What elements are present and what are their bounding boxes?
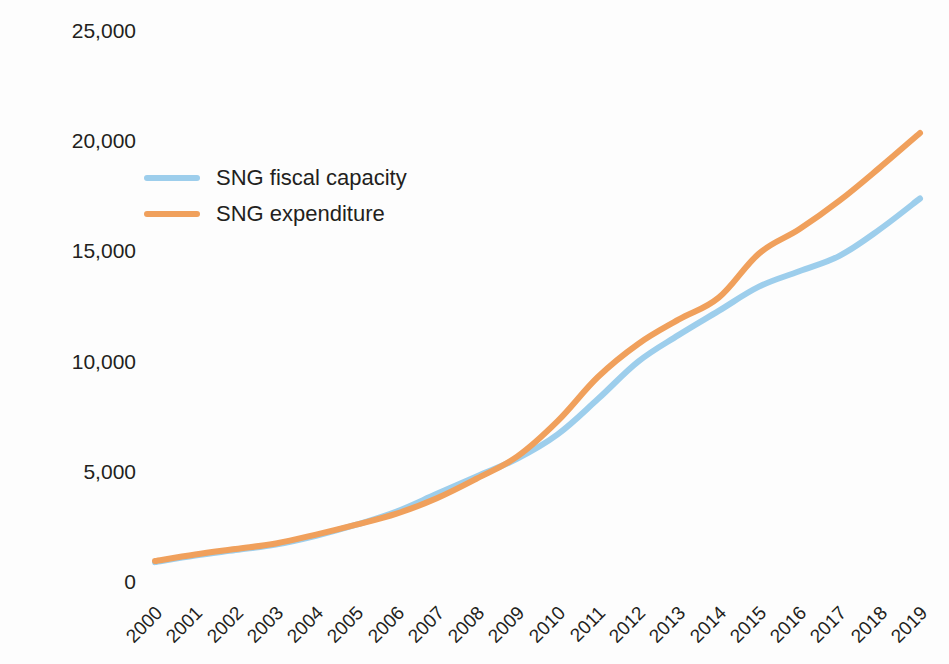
- x-axis-tick-labels: 2000200120022003200420052006200720082009…: [0, 0, 949, 664]
- legend-color-swatch: [144, 175, 200, 181]
- line-chart-figure: RMB billion 05,00010,00015,00020,00025,0…: [0, 0, 949, 664]
- chart-legend: SNG fiscal capacitySNG expenditure: [144, 160, 464, 232]
- legend-color-swatch: [144, 211, 200, 217]
- legend-item: SNG expenditure: [144, 196, 464, 232]
- legend-item-label: SNG fiscal capacity: [216, 167, 407, 189]
- legend-item: SNG fiscal capacity: [144, 160, 464, 196]
- legend-item-label: SNG expenditure: [216, 203, 385, 225]
